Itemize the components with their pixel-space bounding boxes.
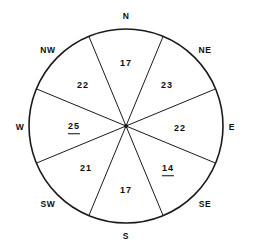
sector-value-e: 22 — [174, 124, 186, 133]
compass-label-sw: SW — [41, 200, 56, 209]
compass-label-n: N — [123, 12, 130, 21]
compass-label-ne: NE — [199, 46, 212, 55]
compass-label-s: S — [123, 232, 129, 241]
sector-value-sw: 21 — [80, 164, 92, 173]
wind-rose-canvas — [0, 0, 254, 252]
sector-value-se: 14 — [162, 164, 174, 176]
sector-value-w: 25 — [68, 122, 80, 134]
compass-label-e: E — [229, 123, 235, 132]
compass-label-w: W — [16, 123, 25, 132]
center-point — [124, 124, 128, 128]
wind-rose-diagram: NNEESESSWWNW 1723221417212522 — [0, 0, 254, 252]
compass-label-nw: NW — [40, 46, 55, 55]
sector-value-s: 17 — [120, 186, 132, 195]
sector-value-ne: 23 — [161, 81, 173, 90]
sector-value-nw: 22 — [77, 81, 89, 90]
compass-label-se: SE — [199, 200, 212, 209]
sector-value-n: 17 — [120, 59, 132, 68]
